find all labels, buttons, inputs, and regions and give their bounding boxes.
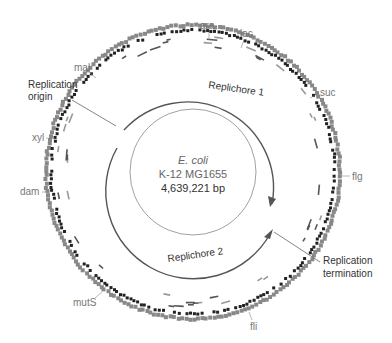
replichore-1-arrowhead [268,196,276,207]
origin-label-line1: Replication [28,79,77,90]
genome-size: 4,639,221 bp [161,182,225,194]
gene-label-lac: lac [240,28,253,39]
termination-label-line1: Replication [323,255,372,266]
gene-label-flg: flg [352,171,363,182]
gene-label-suc: suc [320,87,336,98]
strain-name: K-12 MG1655 [159,168,227,180]
replichore-2-arrowhead [264,229,273,239]
origin-label-line2: origin [28,91,52,102]
replichore-2-label: Replichore 2 [167,245,225,264]
origin-pointer-line [72,100,116,126]
genome-map: Replichore 1 Replichore 2 E. coli K-12 M… [0,0,392,343]
gene-label-muts: mutS [73,297,97,308]
gene-label-xyl: xyl [32,132,44,143]
gene-label-ara: ara [200,20,215,31]
gene-label-dam: dam [20,186,39,197]
termination-label-line2: termination [323,268,372,279]
gene-label-mal: mal [74,62,90,73]
organism-name: E. coli [178,154,209,166]
gene-label-fli: fli [250,321,257,332]
replichore-1-label: Replichore 1 [208,79,266,98]
